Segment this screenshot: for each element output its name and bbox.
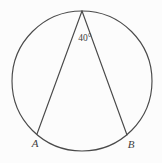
geometry-figure-container: 40° A B [0, 0, 162, 163]
point-label-b: B [128, 138, 135, 150]
angle-measure-label: 40° [78, 33, 92, 43]
point-label-a: A [31, 137, 39, 149]
geometry-diagram: 40° A B [0, 0, 162, 163]
chord-vertex-to-b [82, 11, 127, 135]
circle-outline [12, 11, 152, 151]
chord-vertex-to-a [37, 11, 82, 134]
